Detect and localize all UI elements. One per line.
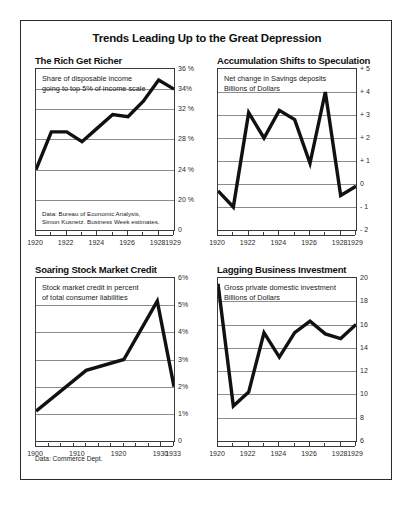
x-axis-minor-tick [232, 232, 233, 235]
x-axis-major-tick [173, 441, 174, 446]
x-axis-major-tick [248, 441, 249, 446]
x-axis-minor-tick [135, 443, 136, 446]
panel-source-note: Data: Bureau of Economic Analysis, Simon… [42, 210, 160, 226]
x-axis-tick-label: 1933 [165, 450, 181, 457]
x-axis-minor-tick [85, 443, 86, 446]
y-axis-tick-label: 32 % [178, 105, 194, 112]
caption-line: Billions of Dollars [224, 293, 336, 303]
panel-caption: Gross private domestic investment Billio… [224, 283, 336, 302]
x-axis-tick-label: 1920 [209, 239, 225, 246]
y-axis-tick-label: 5% [178, 301, 188, 308]
x-axis-major-tick [309, 230, 310, 235]
x-axis-minor-tick [294, 232, 295, 235]
x-axis-minor-tick [50, 232, 51, 235]
x-axis-major-tick [340, 230, 341, 235]
x-axis-major-tick [340, 441, 341, 446]
x-axis-minor-tick [60, 443, 61, 446]
caption-line: Gross private domestic investment [224, 283, 336, 293]
x-axis-tick-label: 1922 [58, 239, 74, 246]
x-axis-minor-tick [123, 443, 124, 446]
figure-frame: Trends Leading Up to the Great Depressio… [20, 20, 392, 480]
y-axis-tick-label: 18 [360, 297, 368, 304]
x-axis-tick-label: 1924 [271, 450, 287, 457]
y-axis-tick-label: 0 [178, 226, 182, 233]
x-axis-major-tick [278, 230, 279, 235]
x-axis-tick-label: 1929 [165, 239, 181, 246]
y-axis-tick-label: 28 % [178, 135, 194, 142]
y-axis-tick-label: 36 % [178, 65, 194, 72]
caption-line: Billions of Dollars [224, 84, 326, 94]
caption-line: Share of disposable income [42, 74, 145, 84]
panel-title: Soaring Stock Market Credit [35, 264, 157, 275]
x-axis-minor-tick [263, 232, 264, 235]
x-axis-major-tick [217, 230, 218, 235]
y-axis-tick-label: + 4 [360, 88, 370, 95]
x-axis-minor-tick [110, 443, 111, 446]
x-axis-minor-tick [98, 443, 99, 446]
x-axis-tick-label: 1928 [150, 239, 166, 246]
x-axis-minor-tick [48, 443, 49, 446]
y-axis-tick-label: 6% [178, 274, 188, 281]
y-axis-tick-label: 6 [360, 437, 364, 444]
caption-line: of total consumer liabilities [42, 293, 139, 303]
y-axis-tick-label: 14 [360, 343, 368, 350]
panel-caption: Share of disposable income going to top … [42, 74, 145, 93]
x-axis-tick-label: 1920 [209, 450, 225, 457]
y-axis-tick-label: + 2 [360, 134, 370, 141]
x-axis-minor-tick [73, 443, 74, 446]
y-axis-tick-label: 10 [360, 390, 368, 397]
x-axis-line [217, 446, 355, 447]
y-axis-tick-label: 20 [360, 274, 368, 281]
x-axis-tick-label: 1920 [27, 239, 43, 246]
y-axis-tick-label: 2% [178, 382, 188, 389]
panel-accumulation-speculation: Accumulation Shifts to Speculation + 5+ … [217, 55, 385, 245]
x-axis-major-tick [35, 230, 36, 235]
x-axis-major-tick [278, 441, 279, 446]
x-axis-tick-label: 1924 [271, 239, 287, 246]
y-axis-tick-label: + 5 [360, 65, 370, 72]
panel-rich-get-richer: The Rich Get Richer 36 %34%32 %28 %24 %2… [35, 55, 203, 245]
caption-line: going to top 5% of income scale [42, 84, 145, 94]
x-axis-minor-tick [324, 232, 325, 235]
panel-title: Lagging Business Investment [217, 264, 346, 275]
panel-business-investment: Lagging Business Investment 201816141210… [217, 264, 385, 456]
x-axis-minor-tick [263, 443, 264, 446]
x-axis-major-tick [355, 230, 356, 235]
x-axis-major-tick [35, 441, 36, 446]
x-axis-major-tick [158, 230, 159, 235]
y-axis-tick-label: 4% [178, 328, 188, 335]
y-axis-tick-label: 3% [178, 355, 188, 362]
x-axis-major-tick [160, 441, 161, 446]
panel-stock-market-credit: Soaring Stock Market Credit 6%5%4%3%2%1%… [35, 264, 203, 456]
y-axis-tick-label: + 3 [360, 111, 370, 118]
y-axis-tick-label: - 1 [360, 203, 368, 210]
panel-caption: Net change in Savings deposits Billions … [224, 74, 326, 93]
x-axis-tick-label: 1926 [119, 239, 135, 246]
x-axis-tick-label: 1920 [111, 450, 127, 457]
y-axis-tick-label: 8 [360, 413, 364, 420]
x-axis-line [35, 446, 173, 447]
x-axis-minor-tick [324, 443, 325, 446]
y-axis-tick-label: + 1 [360, 157, 370, 164]
x-axis-major-tick [309, 441, 310, 446]
x-axis-minor-tick [294, 443, 295, 446]
x-axis-line [217, 235, 355, 236]
panel-title: Accumulation Shifts to Speculation [217, 55, 370, 66]
y-axis-tick-label: 0 [360, 180, 364, 187]
y-axis-tick-label: 20 % [178, 195, 194, 202]
x-axis-major-tick [127, 230, 128, 235]
x-axis-tick-label: 1922 [240, 239, 256, 246]
x-axis-minor-tick [142, 232, 143, 235]
note-line: Data: Bureau of Economic Analysis, [42, 210, 160, 218]
y-axis-tick-label: 1% [178, 409, 188, 416]
y-axis-tick-label: 34% [178, 85, 192, 92]
caption-line: Net change in Savings deposits [224, 74, 326, 84]
x-axis-tick-label: 1928 [332, 239, 348, 246]
x-axis-tick-label: 1929 [347, 239, 363, 246]
x-axis-tick-label: 1926 [301, 239, 317, 246]
x-axis-tick-label: 1926 [301, 450, 317, 457]
x-axis-tick-label: 1924 [89, 239, 105, 246]
x-axis-minor-tick [112, 232, 113, 235]
footer-source-note: Data: Commerce Dept. [35, 455, 102, 462]
y-axis-tick-label: 24 % [178, 165, 194, 172]
